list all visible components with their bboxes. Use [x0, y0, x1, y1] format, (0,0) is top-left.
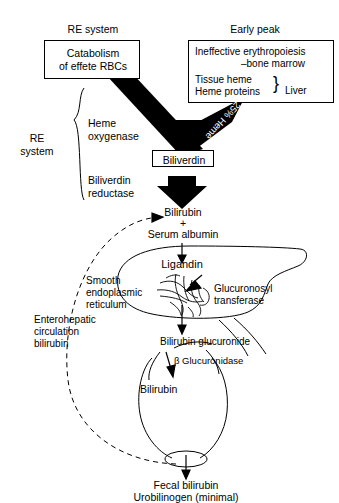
glucuronosyl-transferase-line1: Glucuronosyl [214, 283, 272, 295]
arrow-ser-to-glucuronide-head [178, 325, 186, 334]
catabolism-line1: Catabolism [45, 47, 141, 59]
tissue-heme-line: Tissue heme [195, 74, 252, 86]
heme-proteins-line: Heme proteins [195, 86, 260, 98]
bone-marrow-line: –bone marrow [241, 58, 305, 70]
enterohepatic-line3: bilirubin [34, 338, 68, 350]
biliverdin-box: Biliverdin [152, 150, 214, 167]
enterohepatic-line1: Enterohepatic [34, 314, 96, 326]
heme-oxygenase-line2: oxygenase [88, 130, 139, 142]
early-peak-box: Ineffective erythropoiesis –bone marrow … [188, 40, 334, 103]
glucuronosyl-transferase-line2: transferase [214, 295, 264, 307]
biliverdin-label: Biliverdin [153, 154, 215, 166]
serum-albumin-label: Serum albumin [128, 228, 238, 240]
smooth-er-line3: reticulum [86, 299, 127, 311]
re-system-brace [74, 88, 84, 200]
biliverdin-reductase-line2: reductase [88, 187, 134, 199]
arrow-rectum-to-fecal-head [182, 470, 190, 479]
ligandin-label: Ligandin [144, 258, 220, 271]
ineffective-erythropoiesis-line: Ineffective erythropoiesis [195, 46, 305, 58]
intestine-loop-right [200, 358, 227, 458]
bilirubin-gut-label: Bilirubin [140, 383, 177, 395]
beta-glucuronidase-label: β Glucuronidase [174, 355, 243, 366]
bilirubin-glucuronide-label: Bilirubin glucuronide [160, 336, 250, 348]
heme-oxygenase-line1: Heme [88, 117, 116, 129]
biliverdin-to-bilirubin-arrow [157, 176, 207, 209]
re-bracket-line1: RE [12, 132, 62, 144]
smooth-er-line1: Smooth [86, 275, 120, 287]
intestine-inner-left [149, 352, 160, 380]
catabolism-line2: of effete RBCs [45, 60, 141, 72]
intestine-loop [139, 358, 172, 458]
catabolism-box: Catabolism of effete RBCs [44, 40, 140, 79]
liver-brace: } [273, 73, 279, 94]
urobilinogen-line: Urobilinogen (minimal) [96, 491, 276, 503]
liver-target-label: Liver [285, 85, 307, 97]
re-system-heading: RE system [38, 23, 148, 35]
smooth-er-line2: endoplasmic [86, 287, 142, 299]
biliverdin-reductase-line1: Biliverdin [88, 174, 131, 186]
liver-outline [118, 246, 307, 318]
early-peak-heading: Early peak [200, 23, 310, 35]
fecal-bilirubin-line: Fecal bilirubin [106, 479, 266, 491]
smooth-er-squiggle [157, 274, 209, 317]
re-bracket-line2: system [8, 145, 66, 157]
arrow-glucuronide-to-bilirubin-head [167, 365, 175, 377]
diagram-canvas: RE system Catabolism of effete RBCs Earl… [0, 0, 339, 503]
enterohepatic-line2: circulation [34, 326, 79, 338]
